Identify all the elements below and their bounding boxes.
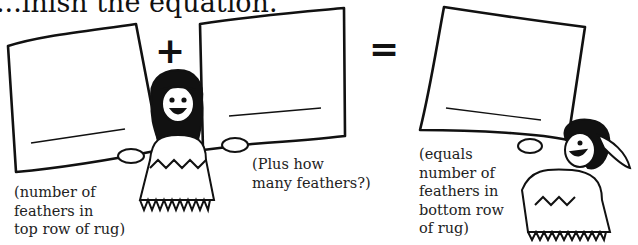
answer-box-2 [200, 8, 345, 150]
answer-box-3 [420, 7, 585, 140]
caption-box-3: (equals number of feathers in bottom row… [419, 145, 504, 238]
caption-box-2: (Plus how many feathers?) [252, 155, 371, 192]
equals-sign: = [369, 28, 399, 69]
caption-box-1: (number of feathers in top row of rug) [14, 183, 125, 239]
child-illustration-2 [518, 120, 630, 240]
plus-sign: + [155, 30, 185, 71]
